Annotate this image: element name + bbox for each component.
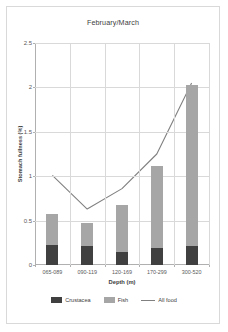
stacked-bar — [151, 166, 163, 265]
bar-segment-fish — [81, 223, 93, 246]
gridline-horizontal — [35, 176, 209, 177]
y-axis-tick-label: 1.5 — [24, 129, 32, 135]
y-axis-tick-mark — [33, 221, 35, 222]
stacked-bar — [186, 85, 198, 265]
stacked-bar — [81, 223, 93, 265]
bar-segment-fish — [151, 166, 163, 249]
y-axis-tick-label: 0.5 — [24, 218, 32, 224]
y-axis-tick-mark — [33, 43, 35, 44]
legend-item[interactable]: Crustacea — [51, 297, 91, 303]
bar-segment-crustacea — [186, 246, 198, 265]
gridline-vertical — [139, 43, 140, 265]
x-axis-tick-mark — [139, 265, 140, 267]
x-axis-tick-mark — [105, 265, 106, 267]
x-axis-tick-label: 120-169 — [112, 269, 132, 275]
x-axis-tick-label: 170-299 — [147, 269, 167, 275]
bar-segment-crustacea — [81, 246, 93, 265]
y-axis-title: Stomach fullness (%) — [15, 43, 25, 265]
x-axis-tick-label: 090-119 — [77, 269, 96, 275]
chart-legend: CrustaceaFishAll food — [17, 297, 211, 303]
legend-box-swatch-icon — [51, 297, 62, 303]
gridline-vertical — [70, 43, 71, 265]
gridline-vertical — [105, 43, 106, 265]
legend-line-swatch-icon — [141, 300, 155, 301]
legend-label: Crustacea — [65, 297, 91, 303]
plot-area: 00.511.522.5065-089090-119120-169170-299… — [35, 43, 209, 265]
x-axis-tick-label: 300-520 — [182, 269, 202, 275]
x-axis-tick-mark — [209, 265, 210, 267]
stacked-bar — [46, 214, 58, 265]
x-axis-tick-label: 065-089 — [42, 269, 62, 275]
bar-segment-fish — [186, 85, 198, 247]
gridline-horizontal — [35, 87, 209, 88]
y-axis-tick-mark — [33, 132, 35, 133]
bar-segment-crustacea — [46, 245, 58, 265]
legend-item[interactable]: Fish — [104, 297, 129, 303]
x-axis-title: Depth (m) — [35, 279, 209, 285]
y-axis-tick-mark — [33, 176, 35, 177]
plot-inner: 00.511.522.5065-089090-119120-169170-299… — [35, 43, 209, 265]
y-axis-title-label: Stomach fullness (%) — [17, 126, 23, 183]
y-axis-tick-label: 1 — [29, 173, 32, 179]
bar-segment-crustacea — [116, 252, 128, 265]
bar-segment-crustacea — [151, 248, 163, 265]
bar-segment-fish — [116, 205, 128, 252]
legend-label: All food — [158, 297, 177, 303]
y-axis-tick-mark — [33, 87, 35, 88]
bar-segment-fish — [46, 214, 58, 244]
line-path-all-food — [52, 83, 191, 209]
legend-box-swatch-icon — [104, 297, 115, 303]
gridline-vertical — [174, 43, 175, 265]
y-axis-tick-label: 2.5 — [24, 40, 32, 46]
y-axis-tick-label: 2 — [29, 84, 32, 90]
chart-container: February/March Stomach fullness (%) 00.5… — [6, 6, 220, 324]
gridline-vertical — [209, 43, 210, 265]
y-axis-tick-label: 0 — [29, 262, 32, 268]
x-axis-tick-mark — [174, 265, 175, 267]
x-axis-tick-mark — [35, 265, 36, 267]
gridline-horizontal — [35, 132, 209, 133]
chart-title: February/March — [7, 18, 219, 27]
legend-item[interactable]: All food — [141, 297, 177, 303]
gridline-horizontal — [35, 43, 209, 44]
stacked-bar — [116, 205, 128, 265]
x-axis-tick-mark — [70, 265, 71, 267]
legend-label: Fish — [118, 297, 129, 303]
